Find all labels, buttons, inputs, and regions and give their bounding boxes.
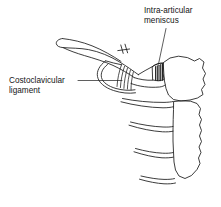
- label-intra-articular-meniscus: Intra-articular meniscus: [144, 6, 193, 25]
- clavicle-outline: [56, 39, 138, 75]
- label-costoclavicular-ligament: Costoclavicular ligament: [9, 76, 65, 95]
- rib-group: [121, 99, 176, 184]
- meniscus-hatching: [156, 64, 163, 81]
- manubrium-outline: [163, 56, 206, 101]
- joint-capsule-lower: [134, 78, 153, 81]
- rib-3-upper: [136, 149, 174, 154]
- clavicle-hatch-mark-2: [125, 44, 128, 53]
- clavicle-hatch-mark-1: [121, 45, 123, 53]
- clavicle-hatch-mark-3: [118, 49, 130, 51]
- rib-1-upper: [123, 99, 174, 103]
- label-meniscus-line-1: Intra-articular: [144, 6, 193, 16]
- label-costoclavicular-line-1: Costoclavicular: [9, 76, 65, 86]
- sternoclavicular-joint-drawing: [0, 0, 221, 207]
- joint-capsule-upper: [138, 67, 152, 75]
- label-meniscus-line-2: meniscus: [144, 16, 193, 26]
- rib-4-lower: [140, 179, 176, 184]
- anatomical-figure: Intra-articular meniscus Costoclavicular…: [0, 0, 221, 207]
- rib-4-upper: [141, 176, 175, 179]
- joint-capsule-inferior-rim: [131, 84, 165, 88]
- sternum-body-outline: [173, 101, 202, 179]
- label-costoclavicular-line-2: ligament: [9, 86, 65, 96]
- leader-line-meniscus: [159, 29, 167, 65]
- rib-2-upper: [131, 122, 174, 127]
